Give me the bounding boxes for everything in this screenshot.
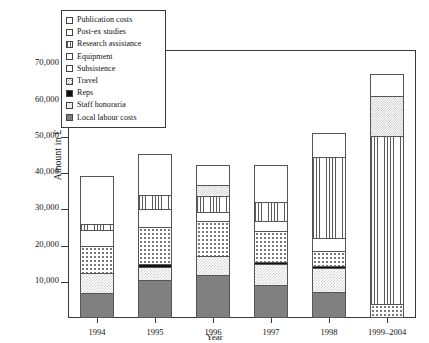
x-axis-title: Year <box>0 332 429 342</box>
bar-segment-equipment <box>196 212 230 221</box>
bar-1998 <box>312 133 346 318</box>
bar-segment-research-assistance <box>370 136 404 304</box>
x-axis-tick-mark <box>329 318 330 323</box>
y-axis-tick-mark <box>61 137 68 138</box>
legend-item: Local labour costs <box>66 112 161 124</box>
legend-item: Research assistance <box>66 38 161 50</box>
y-axis-tick-mark <box>61 246 68 247</box>
bar-segment-staff-honoraria <box>80 273 114 292</box>
legend-swatch-post-ex-studies <box>66 29 73 36</box>
bar-segment-publication-costs <box>80 176 114 224</box>
y-axis-tick-label: 10,000 <box>35 275 59 285</box>
legend-swatch-local-labour-costs <box>66 114 73 121</box>
bar-1996 <box>196 165 230 318</box>
bar-segment-reps <box>254 262 288 264</box>
bar-segment-publication-costs <box>312 133 346 157</box>
bar-segment-staff-honoraria <box>254 264 288 286</box>
bar-segment-travel <box>312 251 346 267</box>
y-axis-tick-label: 50,000 <box>35 130 59 140</box>
bar-segment-local-labour-costs <box>80 293 114 318</box>
bar-segment-staff-honoraria <box>138 267 172 280</box>
y-axis-tick-label: 30,000 <box>35 202 59 212</box>
legend-swatch-publication-costs <box>66 17 73 24</box>
bar-segment-local-labour-costs <box>254 285 288 318</box>
legend-item: Staff honoraria <box>66 99 161 111</box>
y-axis-tick: 20,000 <box>0 246 68 247</box>
y-axis-tick-label: 40,000 <box>35 166 59 176</box>
bar-segment-publication-costs <box>196 165 230 185</box>
y-axis-tick: 40,000 <box>0 173 68 174</box>
bar-segment-research-assistance <box>80 224 114 230</box>
bar-1994 <box>80 176 114 318</box>
x-axis-tick-mark <box>271 318 272 323</box>
legend-item-label: Subsistence <box>77 65 115 73</box>
legend-swatch-equipment <box>66 53 73 60</box>
legend-item-label: Publication costs <box>77 16 132 24</box>
legend-item: Travel <box>66 75 161 87</box>
bar-segment-travel <box>254 231 288 261</box>
y-axis-tick-mark <box>61 282 68 283</box>
legend-item: Publication costs <box>66 14 161 26</box>
bar-segment-travel <box>370 304 404 318</box>
bar-segment-travel <box>80 246 114 274</box>
legend-item: Post-ex studies <box>66 26 161 38</box>
y-axis-tick-mark <box>61 209 68 210</box>
y-axis-tick: 60,000 <box>0 101 68 102</box>
bar-segment-equipment <box>254 221 288 232</box>
bar-segment-research-assistance <box>138 195 172 210</box>
y-axis-tick-mark <box>61 173 68 174</box>
legend-item-label: Post-ex studies <box>77 28 126 36</box>
bar-segment-staff-honoraria <box>312 268 346 291</box>
legend-item-label: Research assistance <box>77 40 141 48</box>
y-axis-tick-label: 70,000 <box>35 57 59 67</box>
bar-segment-equipment <box>80 230 114 245</box>
y-axis-tick: 10,000 <box>0 282 68 283</box>
bar-1999-2004 <box>370 74 404 318</box>
bar-segment-equipment <box>312 238 346 250</box>
x-axis-tick-mark <box>387 318 388 323</box>
y-axis-tick-label: 60,000 <box>35 94 59 104</box>
legend-swatch-staff-honoraria <box>66 102 73 109</box>
legend-item: Subsistence <box>66 63 161 75</box>
bar-segment-research-assistance <box>196 196 230 212</box>
legend-item: Equipment <box>66 51 161 63</box>
y-axis-tick-label: 20,000 <box>35 239 59 249</box>
bar-segment-local-labour-costs <box>138 280 172 318</box>
bar-segment-post-ex-studies <box>370 96 404 136</box>
x-axis-tick-mark <box>213 318 214 323</box>
bar-segment-publication-costs <box>254 165 288 202</box>
bar-segment-equipment <box>138 209 172 227</box>
legend-item-label: Travel <box>77 77 98 85</box>
bar-segment-travel <box>138 227 172 264</box>
legend-swatch-research-assistance <box>66 41 73 48</box>
stacked-bar-chart: Amount in £ 70,00060,00050,00040,00030,0… <box>0 0 429 343</box>
x-axis-tick-mark <box>155 318 156 323</box>
bar-1995 <box>138 154 172 318</box>
legend-item-label: Equipment <box>77 53 113 61</box>
legend-item-label: Staff honoraria <box>77 101 126 109</box>
bar-segment-reps <box>312 266 346 268</box>
x-axis-tick-mark <box>97 318 98 323</box>
bar-segment-reps <box>138 264 172 266</box>
bar-segment-research-assistance <box>254 202 288 220</box>
bar-segment-local-labour-costs <box>312 292 346 318</box>
y-axis-tick: 70,000 <box>0 64 68 65</box>
bar-1997 <box>254 165 288 318</box>
bar-segment-publication-costs <box>138 154 172 194</box>
y-axis-tick: 50,000 <box>0 137 68 138</box>
legend-item: Reps <box>66 87 161 99</box>
bar-segment-research-assistance <box>312 157 346 238</box>
legend-swatch-subsistence <box>66 65 73 72</box>
legend-item-label: Local labour costs <box>77 114 137 122</box>
legend-item-label: Reps <box>77 89 93 97</box>
y-axis-tick: 30,000 <box>0 209 68 210</box>
legend-swatch-travel <box>66 78 73 85</box>
bar-segment-publication-costs <box>370 74 404 96</box>
legend-swatch-reps <box>66 90 73 97</box>
chart-legend: Publication costsPost-ex studiesResearch… <box>61 10 166 128</box>
bar-segment-local-labour-costs <box>196 275 230 318</box>
bar-segment-post-ex-studies <box>196 185 230 196</box>
bar-segment-travel <box>196 221 230 256</box>
bar-segment-staff-honoraria <box>196 256 230 275</box>
